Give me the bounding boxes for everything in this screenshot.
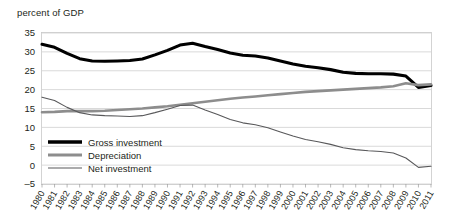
y-axis-tick-labels: –505101520253035 [24, 27, 35, 189]
series-line-gross-investment [42, 43, 431, 87]
legend-label-3: Net investment [88, 163, 152, 174]
line-chart: –505101520253035 19801981198219831984198… [0, 0, 451, 221]
y-axis-tick-label: 35 [24, 27, 35, 38]
x-axis-tick-labels: 1980198119821983198419851986198719881989… [28, 189, 436, 211]
y-axis-tick-label: –5 [24, 178, 35, 189]
legend-label-1: Gross investment [88, 137, 162, 148]
legend-label-2: Depreciation [88, 150, 141, 161]
y-axis-tick-label: 25 [24, 65, 35, 76]
y-axis-tick-label: 0 [30, 160, 35, 171]
chart-legend: Gross investmentDepreciationNet investme… [48, 137, 162, 174]
y-axis-tick-label: 20 [24, 84, 35, 95]
series-line-depreciation [42, 83, 431, 112]
chart-container: percent of GDP –505101520253035 19801981… [0, 0, 451, 221]
y-axis-tick-label: 5 [30, 141, 35, 152]
y-axis-tick-label: 30 [24, 46, 35, 57]
y-axis-tick-label: 10 [24, 122, 35, 133]
y-axis-tick-label: 15 [24, 103, 35, 114]
